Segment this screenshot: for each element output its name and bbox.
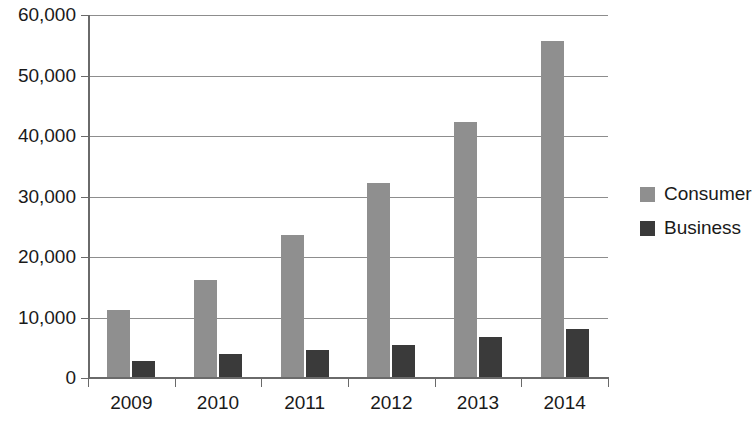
y-axis-tick-label: 30,000 xyxy=(0,186,76,208)
x-axis-label-2014: 2014 xyxy=(544,392,586,414)
x-axis-tick xyxy=(261,379,262,387)
y-axis-tick-label: 60,000 xyxy=(0,4,76,26)
x-axis-label-2013: 2013 xyxy=(457,392,499,414)
x-axis-tick xyxy=(521,379,522,387)
y-axis-line xyxy=(88,15,90,379)
x-axis-label-2009: 2009 xyxy=(110,392,152,414)
y-axis-tick-label: 20,000 xyxy=(0,246,76,268)
legend-item-business: Business xyxy=(640,217,752,239)
x-axis-tick xyxy=(435,379,436,387)
legend-swatch-consumer-icon xyxy=(640,187,655,202)
y-axis-tick-label: 10,000 xyxy=(0,307,76,329)
x-axis-tick xyxy=(608,379,609,387)
y-axis-tick-label: 0 xyxy=(0,367,76,389)
x-axis-tick xyxy=(88,379,89,387)
x-axis-label-2012: 2012 xyxy=(370,392,412,414)
legend: Consumer Business xyxy=(640,183,752,251)
x-axis-label-2010: 2010 xyxy=(197,392,239,414)
x-axis-tick xyxy=(348,379,349,387)
y-axis-tick-label: 40,000 xyxy=(0,125,76,147)
legend-label-business: Business xyxy=(664,217,741,239)
legend-swatch-business-icon xyxy=(640,221,655,236)
bar-chart: 010,00020,00030,00040,00050,00060,000 20… xyxy=(0,0,752,432)
x-axis-tick xyxy=(175,379,176,387)
legend-label-consumer: Consumer xyxy=(664,183,752,205)
legend-item-consumer: Consumer xyxy=(640,183,752,205)
y-axis-tick-label: 50,000 xyxy=(0,65,76,87)
x-axis-label-2011: 2011 xyxy=(284,392,325,414)
